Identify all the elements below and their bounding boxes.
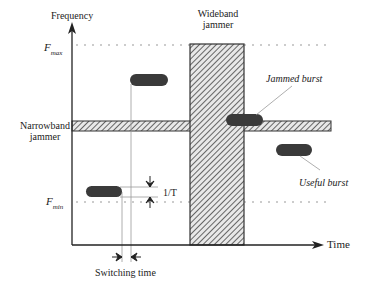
wideband-jammer-block [190, 44, 244, 245]
fmax-main: F [44, 41, 51, 53]
wideband-label-line1: Wideband [190, 8, 246, 19]
jammed-burst-label: Jammed burst [266, 73, 322, 84]
one-over-t-arrows-icon [146, 176, 154, 208]
hop-burst-upper [130, 74, 168, 86]
wideband-jammer-label: Wideband jammer [190, 8, 246, 30]
fmax-label: Fmax [44, 42, 62, 55]
wideband-label-line2: jammer [190, 19, 246, 30]
narrowband-label-line2: jammer [10, 131, 70, 142]
useful-burst-label: Useful burst [299, 177, 348, 188]
one-over-t-label: 1/T [163, 187, 177, 198]
narrowband-jammer-label: Narrowband jammer [10, 120, 70, 142]
fmin-sub: min [53, 203, 64, 211]
switching-time-arrows-icon [112, 253, 141, 261]
narrowband-label-line1: Narrowband [10, 120, 70, 131]
jammed-burst-leader [256, 86, 292, 115]
fmax-sub: max [51, 49, 63, 57]
hop-burst-lower [86, 186, 122, 197]
fmin-label: Fmin [46, 196, 63, 209]
x-axis-label: Time [327, 239, 350, 250]
switching-time-label: Switching time [95, 267, 156, 278]
useful-burst [276, 144, 312, 156]
useful-burst-leader [300, 156, 320, 170]
fmin-main: F [46, 195, 53, 207]
jammed-burst [226, 114, 263, 126]
y-axis-label: Frequency [51, 10, 93, 21]
